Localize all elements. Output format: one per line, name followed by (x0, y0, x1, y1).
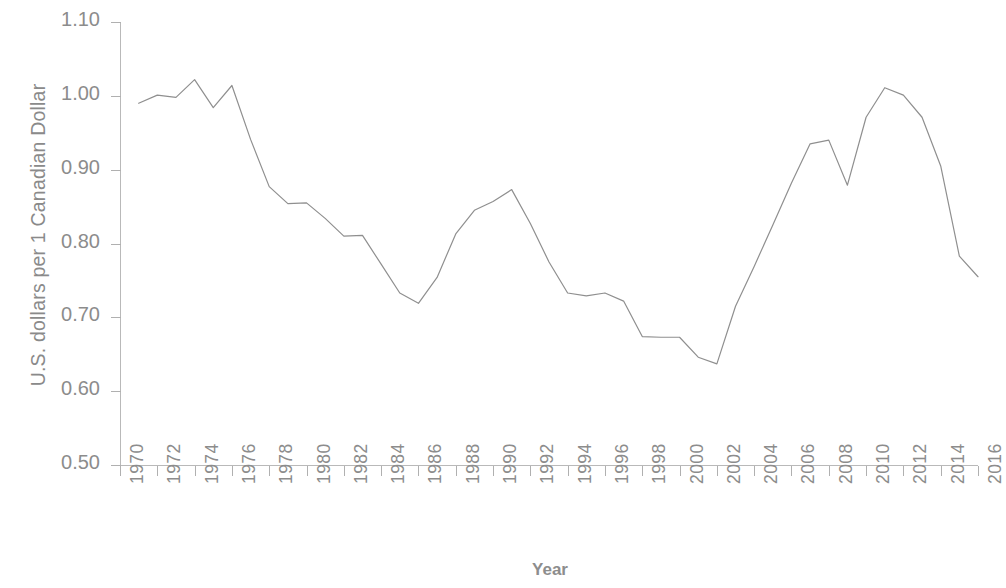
y-axis-tick-label: 0.60 (28, 377, 100, 400)
x-axis-tick (120, 466, 121, 476)
x-axis-tick (791, 466, 792, 476)
y-axis-tick-label: 0.90 (28, 156, 100, 179)
x-axis-tick-label: 2016 (985, 443, 1006, 484)
x-axis-tick (717, 466, 718, 476)
x-axis-tick (568, 466, 569, 476)
y-axis-tick-label: 1.10 (28, 8, 100, 31)
x-axis-tick (418, 466, 419, 476)
x-axis-tick (680, 466, 681, 476)
x-axis-tick (642, 466, 643, 476)
x-axis-tick (941, 466, 942, 476)
x-axis-tick (605, 466, 606, 476)
x-axis-tick (232, 466, 233, 476)
x-axis-tick (754, 466, 755, 476)
x-axis-tick (269, 466, 270, 476)
x-axis-tick (978, 466, 979, 476)
x-axis-title: Year (0, 560, 1006, 580)
x-axis-tick (381, 466, 382, 476)
plot-area (120, 22, 978, 465)
x-axis-tick (829, 466, 830, 476)
y-axis-tick-label: 0.70 (28, 303, 100, 326)
x-axis-tick (530, 466, 531, 476)
y-axis-tick-label: 1.00 (28, 82, 100, 105)
exchange-rate-series (120, 22, 978, 465)
x-axis-tick (456, 466, 457, 476)
x-axis-tick (195, 466, 196, 476)
x-axis-tick (307, 466, 308, 476)
y-axis-tick-label: 0.50 (28, 451, 100, 474)
x-axis-tick (344, 466, 345, 476)
x-axis-tick (493, 466, 494, 476)
x-axis-tick (157, 466, 158, 476)
x-axis-tick (866, 466, 867, 476)
x-axis-tick (903, 466, 904, 476)
y-axis-tick-label: 0.80 (28, 230, 100, 253)
